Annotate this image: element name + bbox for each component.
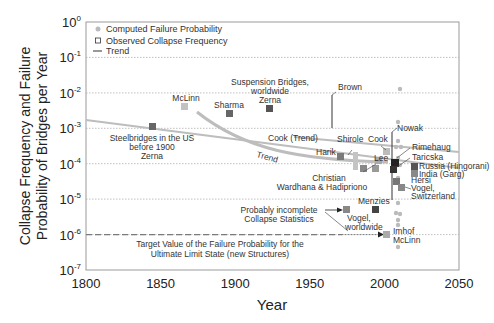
svg-text:Lee: Lee bbox=[374, 153, 388, 163]
svg-text:1800: 1800 bbox=[72, 276, 101, 291]
svg-text:Shirole: Shirole bbox=[337, 134, 364, 144]
svg-text:Trend: Trend bbox=[106, 46, 129, 56]
x-axis-title: Year bbox=[257, 296, 287, 313]
svg-text:Harik: Harik bbox=[316, 147, 337, 157]
svg-text:Computed Failure Probability: Computed Failure Probability bbox=[106, 24, 223, 34]
svg-text:Cook: Cook bbox=[368, 134, 389, 144]
svg-text:Zerna: Zerna bbox=[259, 95, 281, 105]
svg-text:Wardhana & Hadipriono: Wardhana & Hadipriono bbox=[277, 182, 368, 192]
svg-text:2000: 2000 bbox=[370, 276, 399, 291]
svg-text:10-1: 10-1 bbox=[59, 49, 81, 65]
svg-text:Target Value of the Failure Pr: Target Value of the Failure Probability … bbox=[136, 239, 304, 249]
x-axis-ticks: 1800 1850 1900 1950 2000 2050 bbox=[72, 276, 474, 291]
svg-text:1850: 1850 bbox=[146, 276, 175, 291]
svg-text:Cook (Trend): Cook (Trend) bbox=[268, 133, 318, 143]
svg-text:10-2: 10-2 bbox=[59, 85, 81, 101]
svg-text:Ultimate Limit State (new Stru: Ultimate Limit State (new Structures) bbox=[151, 249, 290, 259]
svg-text:1900: 1900 bbox=[221, 276, 250, 291]
svg-text:Observed Collapse Frequency: Observed Collapse Frequency bbox=[106, 36, 228, 46]
svg-text:Switzerland: Switzerland bbox=[411, 191, 455, 201]
svg-text:McLinn: McLinn bbox=[172, 93, 200, 103]
svg-text:Zerna: Zerna bbox=[141, 151, 163, 161]
svg-text:10-4: 10-4 bbox=[59, 156, 81, 172]
svg-text:10-3: 10-3 bbox=[59, 120, 81, 136]
legend-circle-icon bbox=[96, 27, 101, 32]
svg-text:100: 100 bbox=[62, 14, 81, 30]
y-axis-title: Collapse Frequency and Failure Probabili… bbox=[17, 47, 50, 246]
svg-text:Sharma: Sharma bbox=[214, 100, 244, 110]
svg-text:Rimehaug: Rimehaug bbox=[412, 142, 451, 152]
svg-text:10-5: 10-5 bbox=[59, 191, 81, 207]
svg-text:10-6: 10-6 bbox=[59, 227, 81, 243]
svg-text:Collapse Frequency and Failure: Collapse Frequency and Failure bbox=[17, 47, 33, 246]
svg-text:worldwide: worldwide bbox=[344, 222, 383, 232]
y-axis-ticks: 100 10-1 10-2 10-3 10-4 10-5 10-6 10-7 bbox=[59, 14, 81, 278]
svg-text:McLinn: McLinn bbox=[393, 235, 421, 245]
svg-text:Menzies: Menzies bbox=[358, 196, 390, 206]
shirole-range bbox=[353, 152, 358, 170]
svg-text:Collapse Statistics: Collapse Statistics bbox=[244, 214, 313, 224]
svg-text:1950: 1950 bbox=[295, 276, 324, 291]
svg-text:Probability of Bridges per Yea: Probability of Bridges per Year bbox=[34, 51, 50, 240]
svg-text:2050: 2050 bbox=[445, 276, 474, 291]
svg-text:Nowak: Nowak bbox=[397, 123, 424, 133]
chart: 100 10-1 10-2 10-3 10-4 10-5 10-6 10-7 1… bbox=[0, 0, 494, 323]
svg-text:Brown: Brown bbox=[338, 82, 362, 92]
